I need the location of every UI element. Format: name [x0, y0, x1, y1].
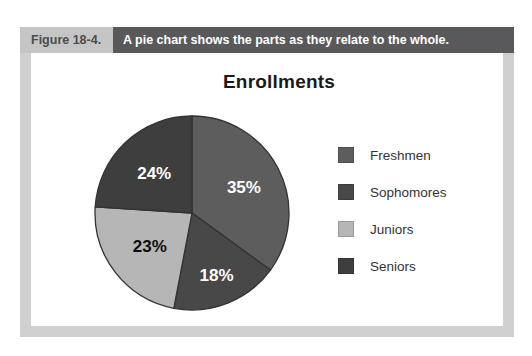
legend-swatch-seniors: [338, 258, 354, 274]
legend: FreshmenSophomoresJuniorsSeniors: [338, 147, 447, 295]
figure-caption: A pie chart shows the parts as they rela…: [123, 33, 449, 47]
legend-item-freshmen: Freshmen: [338, 147, 447, 163]
page: Figure 18-4. A pie chart shows the parts…: [0, 0, 532, 356]
legend-label-seniors: Seniors: [370, 259, 416, 274]
figure-header: Figure 18-4. A pie chart shows the parts…: [20, 27, 514, 53]
figure-label: Figure 18-4.: [20, 27, 113, 53]
legend-swatch-juniors: [338, 221, 354, 237]
legend-label-juniors: Juniors: [370, 222, 414, 237]
figure-frame: Figure 18-4. A pie chart shows the parts…: [20, 27, 514, 337]
pie-chart: 35%18%23%24%: [92, 113, 292, 313]
pie-slice-label-freshmen: 35%: [227, 178, 261, 197]
chart-title: Enrollments: [31, 71, 503, 93]
pie-slice-label-sophomores: 18%: [200, 266, 234, 285]
legend-label-sophomores: Sophomores: [370, 185, 447, 200]
pie-slice-label-juniors: 23%: [133, 237, 167, 256]
legend-item-seniors: Seniors: [338, 258, 447, 274]
legend-label-freshmen: Freshmen: [370, 148, 431, 163]
legend-item-juniors: Juniors: [338, 221, 447, 237]
legend-swatch-sophomores: [338, 184, 354, 200]
legend-item-sophomores: Sophomores: [338, 184, 447, 200]
legend-swatch-freshmen: [338, 147, 354, 163]
pie-slice-label-seniors: 24%: [137, 164, 171, 183]
figure-body: Enrollments 35%18%23%24% FreshmenSophomo…: [20, 53, 514, 337]
figure-caption-bar: A pie chart shows the parts as they rela…: [113, 27, 514, 53]
